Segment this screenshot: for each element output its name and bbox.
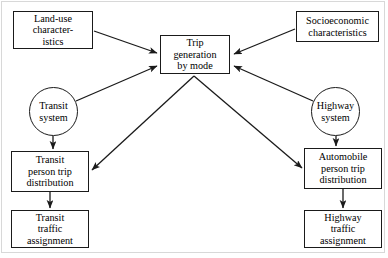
edge-socioeconomic-to-tripgeneration xyxy=(234,29,295,54)
edge-highwaysystem-to-tripgeneration xyxy=(234,66,313,101)
edge-tripgeneration-to-automobiledistribution xyxy=(194,76,302,168)
node-transit-system-label: Transit system xyxy=(37,100,70,123)
node-highway-system-label: Highway system xyxy=(315,100,356,123)
node-trip-generation-by-mode-label: Trip generation by mode xyxy=(172,37,219,71)
edge-landuse-to-tripgeneration xyxy=(94,31,157,53)
node-transit-traffic-assignment[interactable]: Transit traffic assignment xyxy=(11,210,89,248)
node-trip-generation-by-mode[interactable]: Trip generation by mode xyxy=(160,35,230,74)
node-transit-system[interactable]: Transit system xyxy=(29,87,78,136)
node-highway-traffic-assignment-label: Highway traffic assignment xyxy=(318,212,368,246)
node-land-use-characteristics[interactable]: Land-use character- istics xyxy=(13,11,93,49)
node-automobile-person-trip-distribution-label: Automobile person trip distribution xyxy=(317,151,370,185)
node-transit-traffic-assignment-label: Transit traffic assignment xyxy=(25,212,75,246)
node-highway-traffic-assignment[interactable]: Highway traffic assignment xyxy=(304,210,382,248)
node-socioeconomic-characteristics[interactable]: Socioeconomic characteristics xyxy=(296,11,379,42)
node-highway-system[interactable]: Highway system xyxy=(311,87,360,136)
node-automobile-person-trip-distribution[interactable]: Automobile person trip distribution xyxy=(304,148,382,189)
edge-tripgeneration-to-transitdistribution xyxy=(92,76,194,170)
edge-transitsystem-to-tripgeneration xyxy=(76,66,157,101)
node-transit-person-trip-distribution[interactable]: Transit person trip distribution xyxy=(11,151,89,192)
node-socioeconomic-characteristics-label: Socioeconomic characteristics xyxy=(304,15,371,38)
diagram-canvas: Land-use character- istics Socioeconomic… xyxy=(0,0,388,258)
node-transit-person-trip-distribution-label: Transit person trip distribution xyxy=(25,154,76,188)
node-land-use-characteristics-label: Land-use character- istics xyxy=(31,13,76,47)
